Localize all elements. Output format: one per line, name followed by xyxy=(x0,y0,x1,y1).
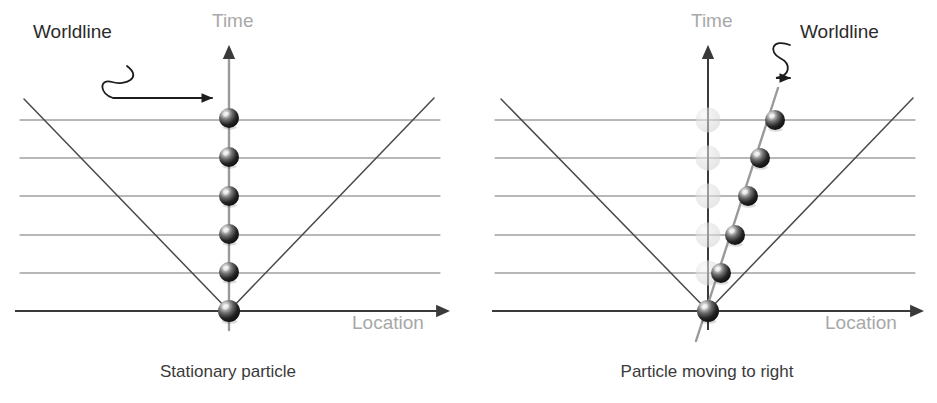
particle-3 xyxy=(219,224,239,246)
light-cone-right xyxy=(708,98,913,311)
panel-caption-stationary: Stationary particle xyxy=(160,362,296,381)
particle-0 xyxy=(765,110,785,132)
worldline-callout-label-moving-right: Worldline xyxy=(800,21,879,42)
worldline-callout-arrow-moving-right xyxy=(773,43,790,78)
particle-1 xyxy=(219,147,239,169)
light-cone-right xyxy=(229,98,434,311)
particle-5 xyxy=(218,300,240,324)
ghost-particle-3 xyxy=(696,223,721,248)
ghost-particle-2 xyxy=(696,184,721,209)
light-cone-left xyxy=(24,99,229,311)
ghost-particle-1 xyxy=(696,146,721,171)
worldline-callout-arrow-stationary xyxy=(102,66,212,98)
location-axis-label-stationary: Location xyxy=(352,312,424,333)
panel-stationary: TimeLocationWorldlineStationary particle xyxy=(15,10,448,381)
time-axis-label-stationary: Time xyxy=(212,10,254,31)
panel-caption-moving-right: Particle moving to right xyxy=(621,362,794,381)
particles-moving-right xyxy=(697,110,785,324)
ghost-particle-0 xyxy=(696,108,721,133)
time-axis-label-moving-right: Time xyxy=(691,10,733,31)
particle-2 xyxy=(219,186,239,208)
light-cone-left xyxy=(501,99,708,311)
particle-0 xyxy=(219,108,239,130)
spacetime-diagram-canvas: TimeLocationWorldlineStationary particle… xyxy=(0,0,937,403)
spacetime-figure: TimeLocationWorldlineStationary particle… xyxy=(0,0,937,403)
worldline-callout-label-stationary: Worldline xyxy=(33,21,112,42)
panels-root: TimeLocationWorldlineStationary particle… xyxy=(15,10,922,381)
panel-moving-right: TimeLocationWorldlineParticle moving to … xyxy=(492,10,922,381)
location-axis-label-moving-right: Location xyxy=(825,312,897,333)
particle-5 xyxy=(697,300,719,324)
particle-4 xyxy=(219,262,239,284)
